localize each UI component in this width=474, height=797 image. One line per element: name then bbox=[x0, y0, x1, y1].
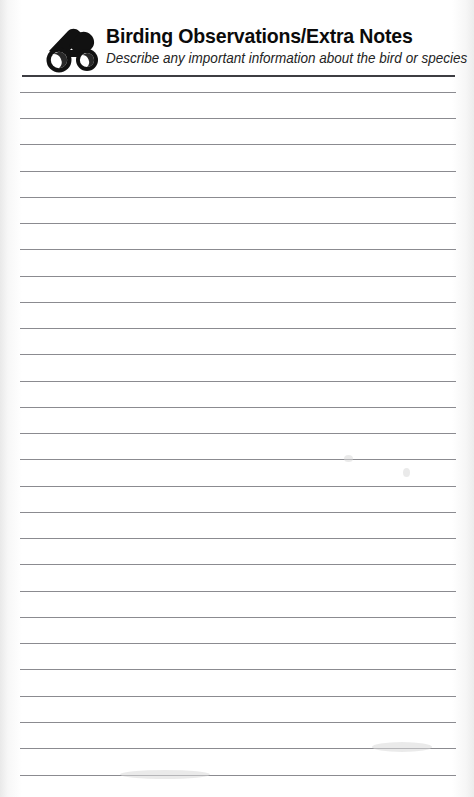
note-line[interactable] bbox=[20, 486, 456, 487]
note-line[interactable] bbox=[20, 591, 456, 592]
note-line[interactable] bbox=[20, 459, 456, 460]
note-line[interactable] bbox=[20, 512, 456, 513]
scan-artifact bbox=[403, 468, 410, 477]
note-line[interactable] bbox=[20, 144, 456, 145]
note-line[interactable] bbox=[20, 538, 456, 539]
note-line[interactable] bbox=[20, 197, 456, 198]
note-line[interactable] bbox=[20, 171, 456, 172]
notes-page: Birding Observations/Extra Notes Describ… bbox=[0, 0, 474, 797]
note-line[interactable] bbox=[20, 354, 456, 355]
note-line[interactable] bbox=[20, 696, 456, 697]
note-line[interactable] bbox=[20, 669, 456, 670]
note-line[interactable] bbox=[20, 328, 456, 329]
note-line[interactable] bbox=[20, 617, 456, 618]
note-line[interactable] bbox=[20, 381, 456, 382]
note-line[interactable] bbox=[20, 302, 456, 303]
notes-lines-area[interactable] bbox=[0, 0, 474, 797]
note-line[interactable] bbox=[20, 433, 456, 434]
note-line[interactable] bbox=[20, 643, 456, 644]
note-line[interactable] bbox=[20, 223, 456, 224]
note-line[interactable] bbox=[20, 276, 456, 277]
note-line[interactable] bbox=[20, 775, 456, 776]
note-line[interactable] bbox=[20, 249, 456, 250]
note-line[interactable] bbox=[20, 407, 456, 408]
note-line[interactable] bbox=[20, 118, 456, 119]
note-line[interactable] bbox=[20, 722, 456, 723]
note-line[interactable] bbox=[20, 92, 456, 93]
scan-artifact bbox=[372, 742, 432, 752]
note-line[interactable] bbox=[20, 748, 456, 749]
note-line[interactable] bbox=[20, 564, 456, 565]
